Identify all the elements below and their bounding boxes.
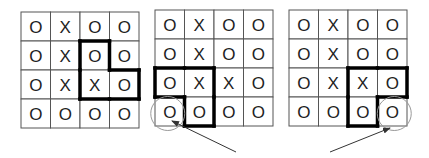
o-mark: O <box>59 105 72 124</box>
o-mark: O <box>356 45 369 64</box>
o-mark: O <box>163 74 176 93</box>
x-mark: X <box>194 45 205 64</box>
o-mark: O <box>222 103 235 122</box>
diagram-canvas: OXOOOXOOOXXOOOOOOXOOOXOOOXXOOOOOOXOOOXOO… <box>0 0 429 158</box>
o-mark: O <box>222 45 235 64</box>
o-mark: O <box>297 74 310 93</box>
o-mark: O <box>356 103 369 122</box>
o-mark: O <box>252 74 265 93</box>
o-mark: O <box>297 16 310 35</box>
o-mark: O <box>163 45 176 64</box>
x-mark: X <box>328 74 339 93</box>
o-mark: O <box>29 18 42 37</box>
o-mark: O <box>222 16 235 35</box>
x-mark: X <box>194 16 205 35</box>
x-mark: X <box>89 76 100 95</box>
o-mark: O <box>252 45 265 64</box>
x-mark: X <box>328 45 339 64</box>
x-mark: X <box>194 74 205 93</box>
o-mark: O <box>118 47 131 66</box>
o-mark: O <box>88 18 101 37</box>
pointer-arrow <box>330 128 390 152</box>
o-mark: O <box>252 16 265 35</box>
grid-1: OXOOOXOOOXXOOOOO <box>21 12 139 128</box>
o-mark: O <box>118 105 131 124</box>
o-mark: O <box>29 105 42 124</box>
x-mark: X <box>357 74 368 93</box>
o-mark: O <box>386 16 399 35</box>
o-mark: O <box>386 103 399 122</box>
o-mark: O <box>327 103 340 122</box>
o-mark: O <box>163 103 176 122</box>
o-mark: O <box>386 74 399 93</box>
o-mark: O <box>118 18 131 37</box>
o-mark: O <box>252 103 265 122</box>
x-mark: X <box>223 74 234 93</box>
o-mark: O <box>386 45 399 64</box>
x-mark: X <box>60 47 71 66</box>
o-mark: O <box>29 76 42 95</box>
o-mark: O <box>297 45 310 64</box>
o-mark: O <box>88 105 101 124</box>
o-mark: O <box>356 16 369 35</box>
x-mark: X <box>328 16 339 35</box>
o-mark: O <box>118 76 131 95</box>
grid-3: OXOOOXOOOXXOOOOO <box>289 10 411 152</box>
o-mark: O <box>88 47 101 66</box>
x-mark: X <box>60 76 71 95</box>
o-mark: O <box>163 16 176 35</box>
o-mark: O <box>297 103 310 122</box>
o-mark: O <box>29 47 42 66</box>
o-mark: O <box>193 103 206 122</box>
grid-2: OXOOOXOOOXXOOOOO <box>151 10 273 152</box>
x-mark: X <box>60 18 71 37</box>
